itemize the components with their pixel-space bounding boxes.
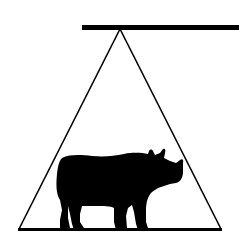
top-bar (82, 25, 239, 30)
rhino-triangle-diagram (0, 0, 239, 250)
rhino-silhouette-icon (56, 149, 183, 230)
